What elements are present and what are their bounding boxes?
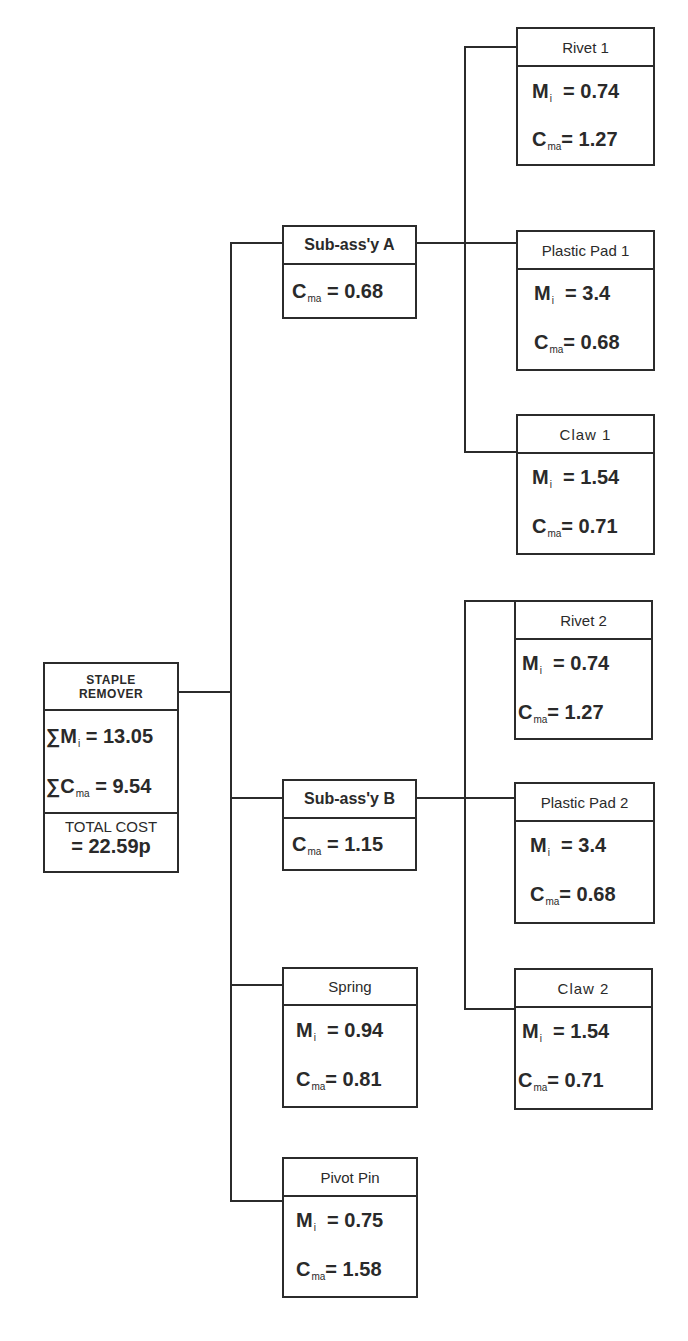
connector-a-bus — [416, 242, 466, 244]
cma-value: = 0.81 — [325, 1068, 381, 1091]
cma-subscript: ma — [533, 1082, 547, 1093]
part-cma: Cma= 1.27 — [518, 115, 653, 163]
part-node-plastic-pad-2: Plastic Pad 2 Mi = 3.4 Cma= 0.68 — [514, 782, 655, 924]
mi-value: = 3.4 — [561, 834, 606, 857]
mi-value: = 0.94 — [327, 1019, 383, 1042]
root-sum-mi: ∑Mi = 13.05 — [45, 711, 177, 761]
root-title: STAPLE REMOVER — [45, 664, 177, 711]
part-cma: Cma= 0.81 — [284, 1054, 416, 1104]
cma-label: C — [292, 280, 306, 303]
part-mi: Mi = 0.74 — [516, 640, 651, 686]
part-cma: Cma= 0.71 — [516, 1054, 651, 1106]
root-title-line1: STAPLE — [86, 673, 135, 687]
connector-claw-1 — [464, 451, 517, 453]
connector-rivet-1 — [464, 46, 517, 48]
root-connector — [178, 691, 232, 693]
part-node-spring: Spring Mi = 0.94 Cma= 0.81 — [282, 967, 418, 1108]
part-node-claw-1: Claw 1 Mi = 1.54 Cma= 0.71 — [516, 414, 655, 555]
connector-subassy-a — [230, 242, 283, 244]
root-node-staple-remover: STAPLE REMOVER ∑Mi = 13.05 ∑Cma = 9.54 T… — [43, 662, 179, 873]
trunk-vertical — [230, 242, 232, 1202]
subassembly-a-cma: Cma = 0.68 — [284, 265, 415, 317]
part-mi: Mi = 3.4 — [518, 270, 653, 316]
connector-b-bus — [416, 797, 516, 799]
cma-label: C — [532, 128, 546, 151]
cma-label: C — [292, 833, 306, 856]
connector-subassy-b — [230, 797, 283, 799]
part-title: Claw 1 — [518, 416, 653, 454]
mi-subscript: i — [314, 1032, 316, 1043]
part-cma: Cma= 0.68 — [516, 868, 653, 920]
bus-a-vertical — [464, 46, 466, 453]
sum-cma-subscript: ma — [76, 788, 90, 799]
total-cost-label: TOTAL COST — [45, 818, 177, 835]
cma-value: = 0.71 — [561, 515, 617, 538]
cma-value: = 0.68 — [327, 280, 383, 303]
part-title: Spring — [284, 969, 416, 1006]
mi-subscript: i — [550, 479, 552, 490]
part-title: Rivet 2 — [516, 602, 651, 640]
sum-mi-subscript: i — [78, 738, 80, 749]
part-title: Plastic Pad 2 — [516, 784, 653, 822]
part-mi: Mi = 3.4 — [516, 822, 653, 868]
mi-subscript: i — [540, 665, 542, 676]
cma-subscript: ma — [545, 896, 559, 907]
part-node-rivet-2: Rivet 2 Mi = 0.74 Cma= 1.27 — [514, 600, 653, 740]
part-mi: Mi = 1.54 — [516, 1008, 651, 1054]
mi-value: = 0.74 — [563, 80, 619, 103]
part-node-plastic-pad-1: Plastic Pad 1 Mi = 3.4 Cma= 0.68 — [516, 230, 655, 371]
part-mi: Mi = 0.94 — [284, 1006, 416, 1054]
cma-value: = 0.68 — [563, 331, 619, 354]
cma-subscript: ma — [307, 293, 321, 304]
mi-subscript: i — [540, 1033, 542, 1044]
connector-claw-2 — [464, 1008, 517, 1010]
part-cma: Cma= 1.58 — [284, 1243, 416, 1295]
mi-subscript: i — [314, 1222, 316, 1233]
connector-spring — [230, 984, 283, 986]
root-sums: ∑Mi = 13.05 ∑Cma = 9.54 — [45, 711, 177, 814]
mi-label: M — [534, 282, 551, 305]
cma-label: C — [518, 701, 532, 724]
cma-label: C — [530, 883, 544, 906]
cma-label: C — [296, 1068, 310, 1091]
part-node-claw-2: Claw 2 Mi = 1.54 Cma= 0.71 — [514, 968, 653, 1110]
mi-value: = 1.54 — [553, 1020, 609, 1043]
cma-value: = 0.71 — [547, 1069, 603, 1092]
subassembly-b-title: Sub-ass'y B — [284, 781, 415, 819]
bus-b-vertical — [464, 600, 466, 1010]
root-sum-cma: ∑Cma = 9.54 — [45, 761, 177, 811]
subassembly-b-cma: Cma = 1.15 — [284, 819, 415, 869]
mi-label: M — [522, 1020, 539, 1043]
mi-label: M — [532, 466, 549, 489]
mi-subscript: i — [548, 847, 550, 858]
mi-value: = 1.54 — [563, 466, 619, 489]
part-mi: Mi = 1.54 — [518, 454, 653, 500]
cma-subscript: ma — [533, 714, 547, 725]
cma-subscript: ma — [549, 344, 563, 355]
subassembly-b-node: Sub-ass'y B Cma = 1.15 — [282, 779, 417, 871]
mi-value: = 0.74 — [553, 652, 609, 675]
mi-value: = 3.4 — [565, 282, 610, 305]
sum-cma-label: ∑C — [46, 775, 75, 798]
total-cost-value: = 22.59p — [45, 835, 177, 857]
mi-value: = 0.75 — [327, 1209, 383, 1232]
connector-plastic-pad-1 — [464, 242, 517, 244]
part-title: Rivet 1 — [518, 29, 653, 67]
sum-cma-value: = 9.54 — [95, 775, 151, 798]
mi-label: M — [296, 1019, 313, 1042]
part-cma: Cma= 0.68 — [518, 316, 653, 368]
cma-value: = 0.68 — [559, 883, 615, 906]
root-total-cost: TOTAL COST = 22.59p — [45, 814, 177, 857]
cma-subscript: ma — [311, 1081, 325, 1092]
part-title: Pivot Pin — [284, 1159, 416, 1197]
cma-value: = 1.58 — [325, 1258, 381, 1281]
cma-value: = 1.15 — [327, 833, 383, 856]
part-cma: Cma= 1.27 — [516, 686, 651, 738]
cma-label: C — [296, 1258, 310, 1281]
mi-label: M — [296, 1209, 313, 1232]
part-cma: Cma= 0.71 — [518, 500, 653, 552]
cma-value: = 1.27 — [547, 701, 603, 724]
connector-pivot-pin — [230, 1200, 283, 1202]
cma-subscript: ma — [311, 1271, 325, 1282]
part-node-pivot-pin: Pivot Pin Mi = 0.75 Cma= 1.58 — [282, 1157, 418, 1298]
